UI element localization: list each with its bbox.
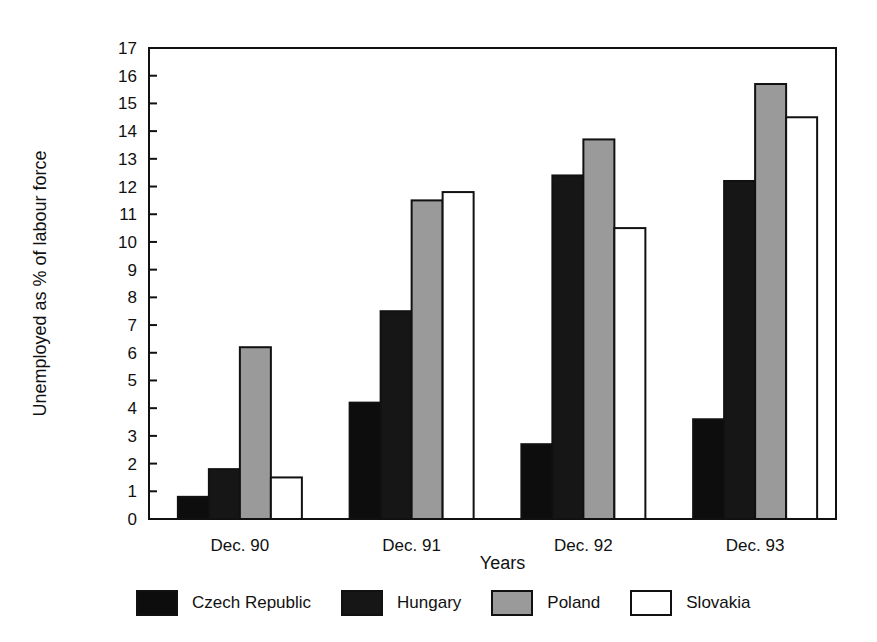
y-tick-label: 2 bbox=[128, 455, 137, 474]
bar bbox=[381, 311, 412, 519]
legend-label: Slovakia bbox=[686, 593, 750, 613]
y-tick-label: 4 bbox=[128, 399, 137, 418]
bar bbox=[583, 139, 614, 519]
x-tick-label: Dec. 91 bbox=[382, 536, 441, 555]
bar bbox=[614, 228, 645, 519]
y-tick-label: 5 bbox=[128, 371, 137, 390]
y-tick-label: 7 bbox=[128, 316, 137, 335]
bar-chart: 01234567891011121314151617Dec. 90Dec. 91… bbox=[0, 0, 877, 642]
x-tick-label: Dec. 90 bbox=[211, 536, 270, 555]
legend-label: Poland bbox=[547, 593, 600, 613]
legend-swatch bbox=[630, 590, 672, 616]
y-tick-label: 0 bbox=[128, 510, 137, 529]
bar bbox=[521, 444, 552, 519]
bar bbox=[178, 497, 209, 519]
bar bbox=[755, 84, 786, 519]
legend-item-slovakia: Slovakia bbox=[630, 590, 750, 616]
bar bbox=[240, 347, 271, 519]
legend-item-poland: Poland bbox=[491, 590, 600, 616]
y-tick-label: 6 bbox=[128, 344, 137, 363]
y-tick-label: 11 bbox=[119, 205, 137, 224]
x-tick-label: Dec. 92 bbox=[554, 536, 613, 555]
y-tick-label: 9 bbox=[128, 261, 137, 280]
y-tick-label: 16 bbox=[118, 67, 137, 86]
y-tick-label: 14 bbox=[118, 122, 137, 141]
y-tick-label: 8 bbox=[128, 288, 137, 307]
y-tick-label: 10 bbox=[118, 233, 137, 252]
legend-label: Hungary bbox=[397, 593, 461, 613]
y-tick-label: 1 bbox=[128, 482, 137, 501]
legend-item-czech-republic: Czech Republic bbox=[136, 590, 311, 616]
bar bbox=[271, 477, 302, 519]
y-tick-label: 3 bbox=[128, 427, 137, 446]
y-axis-label: Unemployed as % of labour force bbox=[30, 150, 50, 416]
bar bbox=[209, 469, 240, 519]
bar bbox=[693, 419, 724, 519]
legend-swatch bbox=[341, 590, 383, 616]
x-axis-label: Years bbox=[480, 553, 525, 573]
bar bbox=[786, 117, 817, 519]
legend: Czech Republic Hungary Poland Slovakia bbox=[136, 590, 781, 616]
y-tick-label: 13 bbox=[118, 150, 137, 169]
y-tick-label: 15 bbox=[118, 94, 137, 113]
y-tick-label: 17 bbox=[118, 39, 137, 58]
y-tick-label: 12 bbox=[118, 178, 137, 197]
x-tick-label: Dec. 93 bbox=[726, 536, 785, 555]
legend-swatch bbox=[136, 590, 178, 616]
legend-label: Czech Republic bbox=[192, 593, 311, 613]
legend-swatch bbox=[491, 590, 533, 616]
bar bbox=[724, 181, 755, 519]
bar bbox=[443, 192, 474, 519]
bar bbox=[350, 403, 381, 519]
bar bbox=[552, 175, 583, 519]
bar bbox=[412, 200, 443, 519]
legend-item-hungary: Hungary bbox=[341, 590, 461, 616]
